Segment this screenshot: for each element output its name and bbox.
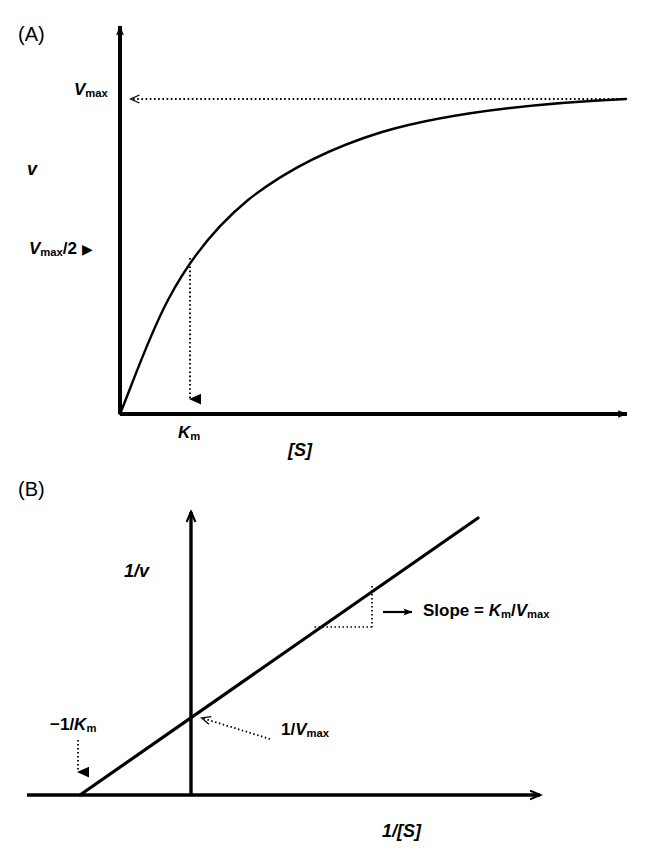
panel-b-x-intercept-label: −1/Km [50, 716, 96, 733]
panel-b-slope-km-subscript: m [501, 608, 511, 620]
panel-a-vmax-label: Vmax [74, 81, 108, 98]
panel-b-slope-text: Slope = [423, 601, 489, 620]
panel-b-slope-vmax-symbol: V [516, 601, 527, 620]
panel-b-y-axis-label: 1/v [124, 562, 149, 580]
panel-b-yintercept-pointer [202, 718, 270, 739]
panel-b-x-intercept-subscript: m [86, 722, 96, 734]
panel-b-x-intercept-prefix: −1/ [50, 715, 74, 734]
panel-a-y-axis-label: v [27, 160, 37, 178]
panel-b-slope-vmax-subscript: max [527, 608, 549, 620]
panel-a-km-symbol: K [178, 423, 190, 442]
panel-a-vmax-subscript: max [85, 87, 107, 99]
figure-container: (A) v Vmax Vmax/2 ▶ Km [S] (B) 1/v Slope… [0, 0, 653, 854]
panel-a-vmax-half-suffix: /2 [63, 239, 77, 258]
panel-a-michaelis-menten-curve [120, 99, 626, 414]
panel-a-km-subscript: m [190, 430, 200, 442]
panel-b-y-intercept-prefix: 1/ [281, 720, 295, 739]
panel-a-vmax-half-arrow-icon: ▶ [82, 241, 93, 257]
panel-b-y-axis-text: 1/v [124, 561, 149, 581]
panel-b-x-intercept-symbol: K [74, 715, 86, 734]
panel-b-y-intercept-label: 1/Vmax [281, 721, 329, 738]
panel-a-vmax-half-subscript: max [40, 246, 62, 258]
panel-b-lineweaver-burk-line [80, 518, 478, 795]
panel-a-km-label: Km [178, 424, 200, 441]
panel-a-vmax-symbol: V [74, 80, 85, 99]
panel-a-vmax-half-symbol: V [29, 239, 40, 258]
panel-b-slope-km-symbol: K [489, 601, 501, 620]
panel-b-letter: (B) [18, 479, 45, 499]
panel-a-group [120, 26, 627, 414]
panel-b-x-axis-label: 1/[S] [382, 822, 421, 840]
panel-a-x-axis-label: [S] [288, 441, 312, 459]
panel-b-group [27, 512, 540, 795]
panel-b-y-intercept-symbol: V [295, 720, 306, 739]
panel-a-letter: (A) [18, 24, 45, 44]
panel-b-slope-annotation: Slope = Km/Vmax [423, 602, 549, 619]
panel-a-vmax-half-label: Vmax/2 ▶ [29, 240, 93, 257]
panel-b-y-intercept-subscript: max [307, 727, 329, 739]
panel-b-x-axis-text: 1/[S] [382, 821, 421, 841]
